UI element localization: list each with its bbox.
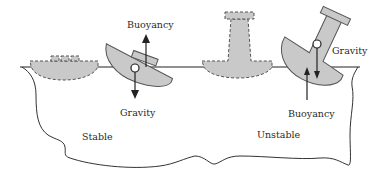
stable-gravity-label: Gravity	[120, 107, 156, 118]
stable-buoyancy-label: Buoyancy	[127, 19, 174, 30]
center-of-gravity-icon	[313, 40, 321, 48]
stable-ship-upright	[30, 56, 98, 80]
buoyancy-arrowhead-icon	[142, 34, 150, 43]
unstable-ship-upright	[202, 12, 272, 78]
stability-diagram: Buoyancy Gravity Stable Gravity Buoyancy…	[0, 0, 373, 177]
center-of-gravity-icon	[131, 64, 139, 72]
gravity-arrowhead-icon	[131, 90, 139, 99]
unstable-buoyancy-label: Buoyancy	[288, 108, 335, 119]
unstable-gravity-label: Gravity	[332, 45, 368, 56]
stable-region-label: Stable	[82, 131, 113, 142]
unstable-region-label: Unstable	[257, 129, 301, 140]
